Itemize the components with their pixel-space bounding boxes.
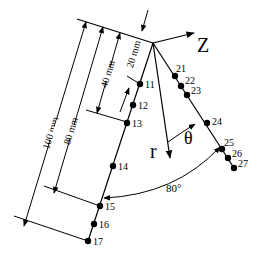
angle-80-label: 80° [166,182,181,194]
theta-label: θ [184,128,193,148]
measurement-point [97,203,103,209]
measurement-point [204,120,210,126]
extension-line-80mm [44,186,100,206]
measurement-point [225,155,231,161]
point-label: 15 [105,201,115,212]
point-label: 21 [176,63,186,74]
measurement-point [184,92,190,98]
point-label: 11 [145,79,155,90]
point-label: 17 [93,236,103,247]
point-label: 24 [212,116,222,127]
dimension-20mm-arrow [120,88,129,112]
point-label: 25 [224,137,234,148]
r-axis-label: r [150,140,157,162]
measurement-point [85,238,91,244]
measurement-point [130,102,136,108]
dimension-80mm [54,27,103,193]
probe-diagram: Z r θ 80° 100 mm 80 mm 40 mm 20 mm 11 12… [0,0,260,258]
incoming-arrow [142,10,148,31]
z-axis-label: Z [197,34,209,56]
point-label: 12 [138,100,148,111]
point-label: 23 [191,85,201,96]
measurement-point [91,221,97,227]
extension-line-100mm [14,216,88,241]
angle-80-arc [104,147,220,198]
point-label: 27 [238,158,248,169]
extension-line-40mm [86,110,127,122]
measurement-point [231,165,237,171]
measurement-point [178,83,184,89]
point-label: 14 [118,161,128,172]
point-label: 13 [132,118,142,129]
measurement-point [124,120,130,126]
measurement-point [137,81,143,87]
measurement-point [110,163,116,169]
probe-line-1-points: 11 12 13 14 15 16 17 [85,79,155,247]
z-axis-arrow [153,33,194,43]
point-label: 16 [99,219,109,230]
dimension-20mm-label: 20 mm [124,39,143,69]
surface-reference-line [77,19,153,43]
probe-line-2-points: 21 22 23 24 25 26 27 [172,63,248,171]
